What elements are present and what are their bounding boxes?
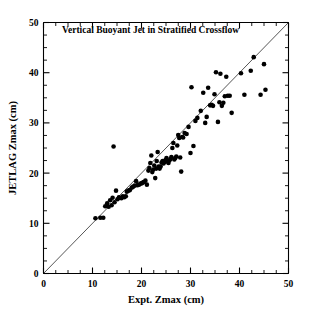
data-point [195, 116, 200, 121]
data-point [175, 143, 180, 148]
data-point [171, 141, 176, 146]
data-point [211, 104, 216, 109]
x-tick-label: 0 [41, 279, 46, 289]
y-axis-title: JETLAG Zmax (cm) [7, 101, 19, 195]
data-point [181, 135, 186, 140]
x-axis-title: Expt. Zmax (cm) [128, 294, 205, 306]
x-tick-label: 20 [137, 279, 147, 289]
scatter-plot-figure: 0102030405001020304050 Vertical Buoyant … [0, 0, 311, 317]
data-point [206, 85, 211, 90]
data-point [93, 216, 98, 221]
data-point [188, 151, 193, 156]
data-point [101, 215, 106, 220]
data-point [204, 115, 209, 120]
data-point [216, 120, 221, 125]
data-point [154, 159, 159, 164]
data-point [147, 166, 152, 171]
data-point [258, 92, 263, 97]
data-points [93, 55, 268, 221]
data-point [242, 92, 247, 97]
data-point [170, 146, 175, 151]
y-tick-label: 20 [29, 169, 39, 179]
plot-canvas: 0102030405001020304050 Vertical Buoyant … [0, 0, 311, 317]
data-point [110, 195, 115, 200]
data-point [221, 101, 226, 106]
data-point [155, 150, 160, 155]
data-point [214, 70, 219, 75]
data-point [224, 74, 229, 79]
data-point [149, 153, 154, 158]
data-point [248, 68, 253, 73]
data-point [124, 194, 129, 199]
y-tick-label: 10 [29, 219, 39, 229]
data-point [143, 178, 148, 183]
data-point [153, 176, 158, 181]
x-tick-label: 30 [186, 279, 196, 289]
x-tick-label: 10 [88, 279, 98, 289]
one-to-one-reference-line [44, 23, 289, 274]
data-point [114, 188, 119, 193]
data-point [184, 132, 189, 137]
y-tick-label: 40 [29, 68, 39, 78]
data-point [134, 179, 139, 184]
data-point [189, 85, 194, 90]
data-point [201, 90, 206, 95]
plot-title: Vertical Buoyant Jet in Stratified Cross… [62, 25, 239, 35]
x-tick-label: 40 [235, 279, 245, 289]
data-point [178, 155, 183, 160]
y-tick-label: 0 [34, 269, 39, 279]
data-point [227, 93, 232, 98]
data-point [174, 154, 179, 159]
data-point [111, 144, 116, 149]
data-point [203, 121, 208, 126]
data-point [262, 62, 267, 67]
data-point [263, 87, 268, 92]
data-point [218, 71, 223, 76]
data-point [179, 169, 184, 174]
x-tick-label: 50 [284, 279, 294, 289]
data-point [212, 92, 217, 97]
data-point [148, 161, 153, 166]
data-point [191, 144, 196, 149]
data-point [251, 55, 256, 60]
data-point [239, 71, 244, 76]
data-point [186, 125, 191, 130]
y-tick-label: 30 [29, 118, 39, 128]
y-tick-label: 50 [29, 18, 39, 28]
identity-line [44, 23, 289, 274]
data-point [198, 109, 203, 114]
data-point [229, 111, 234, 116]
data-point [145, 182, 150, 187]
